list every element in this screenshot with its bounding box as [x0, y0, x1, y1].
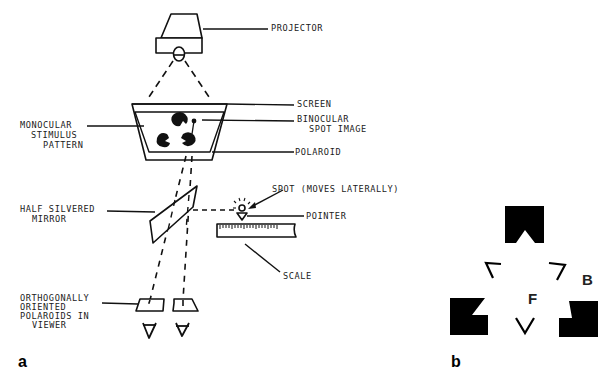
half-silvered-mirror-icon	[150, 186, 197, 243]
label-binocular-line2: SPOT IMAGE	[309, 125, 367, 135]
mirror-leader	[107, 211, 155, 212]
eyes-icon	[143, 323, 189, 338]
label-scale: SCALE	[283, 272, 312, 282]
label-polaroid: POLAROID	[295, 148, 341, 158]
label-pointer: POINTER	[306, 212, 346, 222]
panel-label-a: a	[18, 353, 27, 371]
binocular-spot-leader	[202, 120, 294, 121]
scale-icon	[217, 224, 296, 237]
figure-canvas: PROJECTOR SCREEN BINOCULAR SPOT IMAGE PO…	[0, 0, 611, 379]
letter-figure-f: F	[528, 290, 537, 307]
right-inducer	[559, 301, 598, 337]
viewer-polaroids-icon	[136, 299, 198, 311]
panel-label-b: b	[451, 353, 461, 371]
label-spot: SPOT (MOVES LATERALLY)	[272, 185, 399, 195]
projector-icon	[156, 14, 202, 61]
letter-background-b: B	[582, 271, 593, 288]
top-inducer	[505, 206, 544, 243]
label-screen: SCREEN	[297, 100, 332, 110]
label-polaroids-line4: VIEWER	[32, 321, 67, 331]
screen-leader	[227, 104, 294, 105]
projection-beam	[147, 61, 211, 100]
pointer-icon	[237, 213, 247, 220]
kanizsa-figure	[450, 206, 598, 337]
line-inducers	[486, 263, 565, 333]
label-monocular-line3: PATTERN	[43, 141, 83, 151]
scale-leader	[245, 244, 280, 272]
label-mirror-line2: MIRROR	[32, 215, 67, 225]
polaroids-leader	[102, 303, 138, 304]
left-inducer	[450, 298, 488, 335]
spot-light-icon	[233, 198, 250, 211]
label-projector: PROJECTOR	[271, 24, 323, 34]
